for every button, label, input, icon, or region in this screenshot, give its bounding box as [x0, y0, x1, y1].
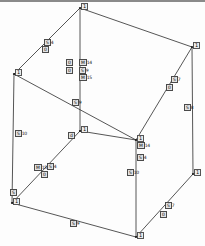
- lbl-mid-stack-3: M15: [79, 75, 92, 80]
- edge-label-number: 9: [79, 100, 82, 105]
- edge-label-symbol: S: [70, 220, 77, 227]
- vertex-label-right-lower: 1: [194, 169, 201, 176]
- lbl-center-vert: S9: [72, 100, 81, 105]
- edge-label-number: 8: [191, 105, 194, 110]
- edge-label-symbol: S: [44, 39, 51, 46]
- lbl-top-left-b: 0: [42, 47, 49, 52]
- lbl-bottom-edge: S9: [70, 221, 79, 226]
- edge-label-number: 14: [87, 60, 92, 65]
- lbl-mid-stack-1: M14: [79, 60, 92, 65]
- edge-label-symbol: S: [165, 202, 172, 209]
- edge-label-symbol: 0: [160, 211, 167, 218]
- vertex-label-bottom: 1: [137, 232, 144, 239]
- edge-label-symbol: S: [15, 130, 22, 137]
- lbl-mid-col-b: 0: [66, 68, 73, 73]
- lbl-lower-left-b: S4: [47, 164, 56, 169]
- lbl-left-bottom: S: [10, 190, 17, 195]
- edge-label-number: 4: [51, 40, 54, 45]
- lbl-lower-left-a: M15: [34, 165, 47, 170]
- edge-label-symbol: 0: [41, 171, 48, 178]
- edge-label-number: 9: [77, 221, 80, 226]
- lbl-front-vert-a: M14: [137, 143, 150, 148]
- edge-label-symbol: M: [79, 74, 87, 81]
- edge-label-symbol: S: [127, 169, 134, 176]
- lbl-right-upper-b: 0: [166, 85, 173, 90]
- cube-edge: [136, 47, 192, 140]
- edge-label-symbol: S: [47, 163, 54, 170]
- edge-label-symbol: 0: [166, 84, 173, 91]
- edge-label-number: 14: [145, 143, 150, 148]
- edge-label-symbol: 0: [66, 67, 73, 74]
- edge-label-number: 7: [178, 77, 181, 82]
- lbl-front-vert-c: S10: [127, 170, 139, 175]
- edge-label-symbol: M: [79, 59, 87, 66]
- lbl-right-bottom-a: S7: [165, 203, 174, 208]
- vertex-label-left-lower: 1: [13, 198, 20, 205]
- edge-label-symbol: d: [68, 132, 75, 139]
- lbl-top-left-a: S4: [44, 40, 53, 45]
- edge-label-symbol: 0: [66, 59, 73, 66]
- cube-edge: [12, 74, 14, 203]
- edge-label-number: 7: [172, 203, 175, 208]
- lbl-right-upper-a: S7: [171, 77, 180, 82]
- lbl-hidden-tag: d: [68, 133, 75, 138]
- vertex-label-top: 1: [81, 3, 88, 10]
- edge-label-symbol: M: [137, 142, 145, 149]
- edge-label-symbol: S: [184, 104, 191, 111]
- cube-edge: [14, 74, 136, 140]
- vertex-label-front-mid: 1: [137, 135, 144, 142]
- edge-label-number: 4: [144, 155, 147, 160]
- lbl-right-vert: S8: [184, 105, 193, 110]
- lbl-front-vert-b: S4: [137, 155, 146, 160]
- lbl-mid-stack-2: S9: [79, 68, 88, 73]
- cube-edge: [80, 8, 192, 47]
- edge-label-number: 10: [22, 131, 27, 136]
- lbl-right-bottom-b: 0: [160, 212, 167, 217]
- lbl-lower-left-c: 0: [41, 172, 48, 177]
- edge-label-symbol: S: [137, 154, 144, 161]
- edge-label-symbol: S: [10, 189, 17, 196]
- edge-label-symbol: S: [171, 76, 178, 83]
- vertex-label-left-upper: 1: [15, 69, 22, 76]
- lbl-left-vert: S10: [15, 131, 27, 136]
- edge-label-number: 9: [86, 68, 89, 73]
- edge-label-symbol: S: [79, 67, 86, 74]
- lbl-mid-col-a: 0: [66, 60, 73, 65]
- cube-wireframe: [0, 0, 205, 246]
- edge-label-number: 15: [87, 75, 92, 80]
- vertex-label-right-upper: 1: [193, 42, 200, 49]
- edge-label-number: 10: [134, 170, 139, 175]
- edge-label-symbol: M: [34, 164, 42, 171]
- vertex-label-center-hidden: 1: [81, 126, 88, 133]
- edge-label-symbol: S: [72, 99, 79, 106]
- edge-label-symbol: 0: [42, 46, 49, 53]
- edge-label-number: 4: [54, 164, 57, 169]
- diagram-canvas: 11111111 S4000M14S9M15S70S8S9S10dM14S4S1…: [0, 0, 205, 246]
- cube-edge: [192, 47, 193, 174]
